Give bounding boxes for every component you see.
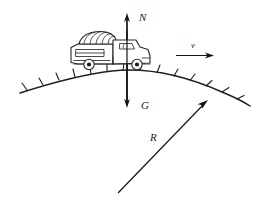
label-gravity: G (141, 99, 149, 111)
diagram-svg: N G v R (0, 0, 261, 206)
label-radius: R (149, 131, 157, 143)
truck (71, 32, 150, 70)
rear-wheel (84, 59, 94, 69)
velocity-vector (176, 53, 214, 59)
front-wheel (132, 59, 142, 69)
label-velocity: v (191, 40, 195, 50)
radius-vector (118, 100, 208, 193)
physics-diagram-canvas: N G v R (0, 0, 261, 206)
label-normal-force: N (138, 11, 147, 23)
